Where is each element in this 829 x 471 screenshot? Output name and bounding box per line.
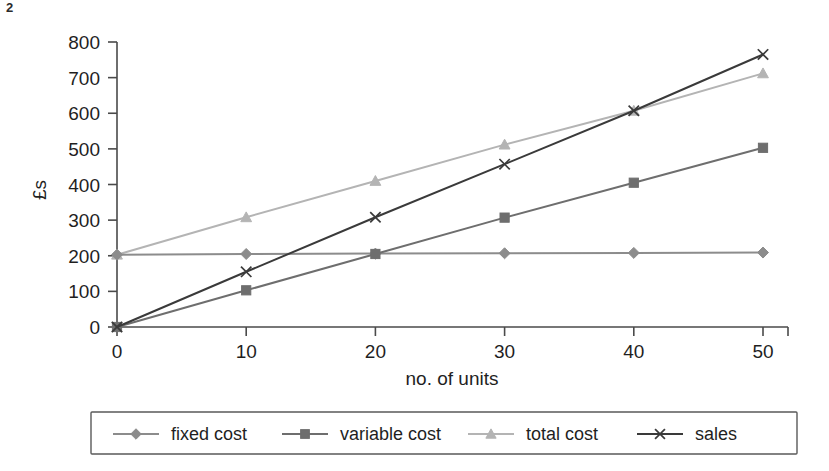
y-tick-label: 300 <box>68 210 100 231</box>
series-layer <box>112 49 769 332</box>
data-point-marker <box>499 248 510 259</box>
data-point-marker <box>371 249 380 258</box>
legend-entries: fixed costvariable costtotal costsales <box>113 424 737 444</box>
x-tick-label: 50 <box>752 341 773 362</box>
y-tick-label: 100 <box>68 281 100 302</box>
series-line <box>117 54 763 327</box>
y-tick-label: 500 <box>68 139 100 160</box>
line-chart: 0100200300400500600700800 01020304050 £s… <box>0 0 829 471</box>
data-point-marker <box>629 178 638 187</box>
y-tick-label: 0 <box>89 317 100 338</box>
y-axis-ticks: 0100200300400500600700800 <box>68 32 117 338</box>
chart-container: 2 0100200300400500600700800 01020304050 … <box>0 0 829 471</box>
legend-item-variable-cost[interactable]: variable cost <box>282 424 441 444</box>
series-sales <box>112 49 768 332</box>
data-point-marker <box>241 248 252 259</box>
legend-item-sales[interactable]: sales <box>637 424 737 444</box>
data-point-marker <box>628 247 639 258</box>
x-tick-label: 10 <box>236 341 257 362</box>
legend-item-total-cost[interactable]: total cost <box>468 424 598 444</box>
x-tick-label: 20 <box>365 341 386 362</box>
legend-label: sales <box>695 424 737 444</box>
series-fixed-cost <box>112 247 769 260</box>
y-tick-label: 600 <box>68 103 100 124</box>
series-variable-cost <box>112 143 767 331</box>
legend-label: total cost <box>526 424 598 444</box>
data-point-marker <box>499 159 509 169</box>
y-axis-title: £s <box>29 180 50 200</box>
y-tick-label: 800 <box>68 32 100 53</box>
series-line <box>117 73 763 254</box>
legend-item-fixed-cost[interactable]: fixed cost <box>113 424 247 444</box>
x-tick-label: 30 <box>494 341 515 362</box>
x-tick-label: 40 <box>623 341 644 362</box>
data-point-marker <box>758 49 768 59</box>
data-point-marker <box>758 143 767 152</box>
data-point-marker <box>758 247 769 258</box>
series-total-cost <box>112 68 769 259</box>
data-point-marker <box>242 286 251 295</box>
y-tick-label: 400 <box>68 175 100 196</box>
legend-label: fixed cost <box>171 424 247 444</box>
data-point-marker <box>370 212 380 222</box>
legend-label: variable cost <box>340 424 441 444</box>
series-line <box>117 253 763 255</box>
legend-marker-icon <box>301 430 310 439</box>
x-axis-title: no. of units <box>406 368 499 389</box>
data-point-marker <box>758 68 769 78</box>
x-axis-ticks: 01020304050 <box>112 327 788 362</box>
y-tick-label: 700 <box>68 68 100 89</box>
data-point-marker <box>241 267 251 277</box>
series-line <box>117 148 763 327</box>
legend-marker-icon <box>131 429 141 439</box>
y-tick-label: 200 <box>68 246 100 267</box>
data-point-marker <box>500 213 509 222</box>
x-tick-label: 0 <box>112 341 123 362</box>
